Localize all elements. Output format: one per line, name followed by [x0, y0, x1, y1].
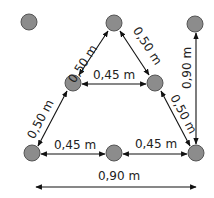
node-circle: [187, 16, 203, 32]
node-circle: [21, 14, 37, 30]
dim-label: 0,90 m: [98, 169, 140, 183]
dim-label: 0,50 m: [167, 92, 199, 136]
node-circle: [188, 145, 204, 161]
dim-label: 0,45 m: [93, 68, 135, 82]
node-circle: [24, 145, 40, 161]
node-circle: [106, 15, 122, 31]
dim-label: 0,45 m: [135, 137, 177, 151]
dim-label: 0,50 m: [130, 24, 165, 67]
node-circle: [106, 145, 122, 161]
dim-label: 0,45 m: [54, 138, 96, 152]
node-circle: [147, 75, 163, 91]
dim-label: 0,90 m: [180, 47, 194, 89]
spacing-diagram: 0,50 m 0,50 m 0,45 m 0,50 m 0,50 m 0,90 …: [0, 0, 214, 198]
